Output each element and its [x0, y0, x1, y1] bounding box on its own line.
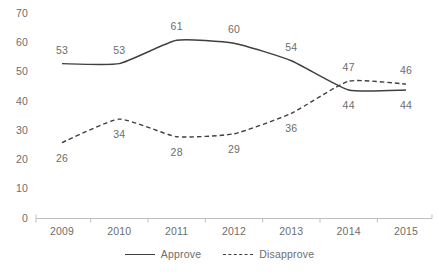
- legend-item-disapprove[interactable]: Disapprove: [223, 248, 314, 260]
- data-point-label: 53: [47, 44, 77, 56]
- y-axis-tick-label: 20: [4, 153, 28, 165]
- data-point-label: 44: [334, 99, 364, 111]
- line-chart: 010203040506070 200920102011201220132014…: [0, 0, 439, 276]
- x-axis-tick-label: 2015: [379, 225, 433, 237]
- data-point-label: 60: [219, 23, 249, 35]
- x-axis-tick-label: 2013: [264, 225, 318, 237]
- data-point-label: 44: [391, 99, 421, 111]
- legend-item-label: Disapprove: [259, 248, 314, 260]
- x-axis-tick-label: 2014: [322, 225, 376, 237]
- chart-legend: Approve Disapprove: [0, 248, 439, 260]
- data-point-label: 26: [47, 152, 77, 164]
- y-axis-tick-label: 60: [4, 36, 28, 48]
- data-point-label: 46: [391, 64, 421, 76]
- legend-item-label: Approve: [161, 248, 202, 260]
- x-axis-tick-label: 2009: [35, 225, 89, 237]
- y-axis-tick-label: 30: [4, 124, 28, 136]
- y-axis-tick-label: 70: [4, 7, 28, 19]
- x-axis-tick-label: 2010: [92, 225, 146, 237]
- line-dashed-icon: [223, 250, 253, 259]
- data-point-label: 61: [162, 20, 192, 32]
- data-point-label: 36: [276, 122, 306, 134]
- data-point-label: 34: [104, 128, 134, 140]
- data-point-label: 28: [162, 146, 192, 158]
- data-point-label: 53: [104, 44, 134, 56]
- data-point-label: 47: [334, 61, 364, 73]
- line-solid-icon: [125, 250, 155, 259]
- y-axis-tick-label: 40: [4, 95, 28, 107]
- data-point-label: 54: [276, 41, 306, 53]
- x-axis-tick-label: 2012: [207, 225, 261, 237]
- y-axis-tick-label: 0: [4, 212, 28, 224]
- y-axis-tick-label: 50: [4, 65, 28, 77]
- y-axis-tick-label: 10: [4, 182, 28, 194]
- data-point-label: 29: [219, 143, 249, 155]
- x-axis-tick-label: 2011: [150, 225, 204, 237]
- legend-item-approve[interactable]: Approve: [125, 248, 202, 260]
